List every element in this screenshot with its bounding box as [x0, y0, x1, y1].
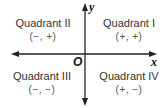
quadrant-iii-label: Quadrant III: [7, 70, 77, 83]
quadrant-ii-signs: (−, +): [8, 31, 78, 43]
quadrant-iii-signs: (−, −): [7, 84, 77, 96]
origin-label: O: [73, 56, 82, 68]
quadrant-ii-label: Quadrant II: [8, 17, 78, 30]
y-axis-down-arrow-icon: [82, 98, 88, 106]
quadrant-i-label: Quadrant I: [94, 17, 164, 30]
x-axis-left-arrow-icon: [11, 51, 19, 57]
quadrant-iv-label: Quadrant IV: [94, 70, 164, 83]
quadrant-i-signs: (+, +): [94, 31, 164, 43]
x-axis-label: x: [151, 56, 157, 68]
y-axis-label: y: [89, 1, 94, 13]
coordinate-plane-diagram: y x O Quadrant II (−, +) Quadrant I (+, …: [0, 0, 168, 108]
quadrant-iv-signs: (+, −): [94, 84, 164, 96]
y-axis-up-arrow-icon: [82, 3, 88, 11]
